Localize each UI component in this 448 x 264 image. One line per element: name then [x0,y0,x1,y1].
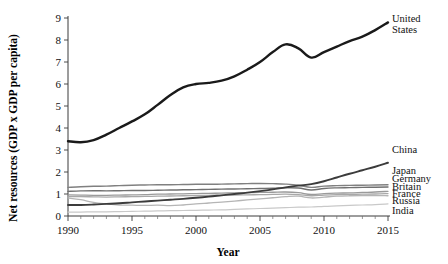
series-line-united-states [68,22,388,142]
y-axis-title: Net resources (GDP x GDP per capita) [7,34,20,222]
x-tick-labels: 199019952000200520102015 [57,224,400,236]
series-label-india: India [392,205,414,216]
y-tick-label: 5 [56,100,62,112]
x-tick-label: 2010 [313,224,336,236]
x-tick-label: 2005 [249,224,272,236]
y-tick-label: 2 [56,166,62,178]
x-tick-label: 1995 [121,224,144,236]
y-tick-label: 7 [56,56,62,68]
x-tick-label: 1990 [57,224,80,236]
line-chart: 0123456789 199019952000200520102015 Unit… [0,0,448,264]
x-axis-title: Year [217,246,240,258]
series-label-united-states: United [392,13,421,24]
series-line-germany [68,187,388,191]
series-labels-group: UnitedStatesChinaJapanGermanyBritainFran… [392,13,432,216]
series-group [68,22,388,212]
series-label-china: China [392,144,417,155]
y-tick-label: 8 [56,34,62,46]
x-tick-label: 2015 [377,224,400,236]
y-tick-label: 9 [56,12,62,24]
y-tick-label: 0 [56,210,62,222]
y-tick-labels: 0123456789 [56,12,62,222]
y-tick-label: 6 [56,78,62,90]
series-label-united-states: States [392,24,417,35]
y-tick-label: 1 [56,188,62,200]
chart-canvas: 0123456789 199019952000200520102015 Unit… [0,0,448,264]
x-tick-label: 2000 [185,224,208,236]
series-line-japan [68,183,388,187]
y-tick-label: 3 [56,144,62,156]
y-tick-label: 4 [56,122,62,134]
